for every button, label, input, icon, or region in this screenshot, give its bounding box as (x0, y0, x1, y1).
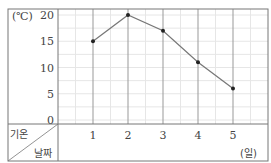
y-tick: 15 (40, 35, 54, 48)
x-tick: 2 (125, 129, 132, 142)
y-unit-label: (℃) (12, 10, 33, 23)
data-point (231, 87, 235, 91)
line-chart: 05101520 12345 (℃) (일) 기온 날짜 (0, 0, 271, 163)
data-point (126, 13, 130, 17)
data-point (91, 39, 95, 43)
x-tick-labels: 12345 (90, 129, 237, 142)
y-tick: 0 (47, 114, 54, 127)
x-tick: 1 (90, 129, 97, 142)
col-header-label: 날짜 (34, 148, 52, 159)
x-tick: 3 (160, 129, 167, 142)
data-point (196, 60, 200, 64)
y-tick: 10 (40, 62, 54, 75)
y-tick-labels: 05101520 (40, 9, 54, 127)
y-tick: 5 (47, 88, 54, 101)
row-header-label: 기온 (10, 129, 28, 140)
x-unit-label: (일) (240, 148, 257, 159)
data-point (161, 29, 165, 33)
x-tick: 5 (230, 129, 237, 142)
y-tick: 20 (40, 9, 54, 22)
x-tick: 4 (195, 129, 202, 142)
